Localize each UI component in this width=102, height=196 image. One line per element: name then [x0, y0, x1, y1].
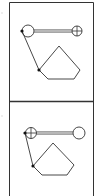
pentagon-shape — [33, 143, 74, 175]
pentagon-shape — [39, 46, 80, 79]
side-mark — [2, 116, 3, 117]
anchor-dot — [20, 29, 23, 32]
side-mark — [2, 13, 3, 14]
anchor-dot — [37, 68, 40, 71]
panel-bottom — [23, 127, 85, 175]
panel-top — [20, 25, 82, 79]
anchor-dot — [23, 131, 26, 134]
diagram-canvas — [0, 0, 102, 196]
plain-circle-icon — [73, 127, 85, 139]
anchor-dot — [31, 164, 34, 167]
side-marks — [2, 13, 3, 117]
